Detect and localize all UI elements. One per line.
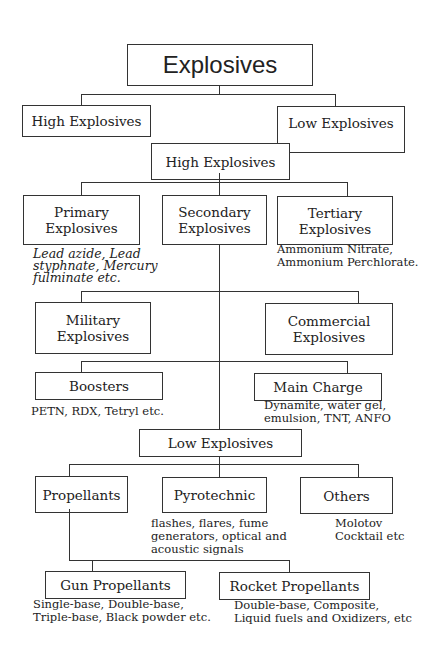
node-propellants: Propellants xyxy=(35,476,128,513)
node-label: Explosives xyxy=(288,329,371,345)
node-rocket-propellants: Rocket Propellants xyxy=(219,572,370,600)
connector xyxy=(81,361,82,372)
node-label: Explosives xyxy=(45,220,117,236)
pyrotechnic-examples: flashes, flares, fume generators, optica… xyxy=(151,517,287,556)
connector xyxy=(92,560,93,571)
node-label: Boosters xyxy=(69,378,129,394)
node-pyrotechnic: Pyrotechnic xyxy=(162,477,267,513)
tertiary-examples: Ammonium Nitrate, Ammonium Perchlorate. xyxy=(277,243,419,269)
node-others: Others xyxy=(300,477,393,514)
connector xyxy=(69,464,358,465)
connector xyxy=(219,85,220,94)
node-label: Explosives xyxy=(57,328,129,344)
connector xyxy=(335,94,336,106)
node-label: High Explosives xyxy=(165,154,275,170)
connector xyxy=(81,361,347,362)
node-military-explosives: Military Explosives xyxy=(35,302,151,354)
connector xyxy=(81,182,82,195)
node-label: Commercial xyxy=(288,313,371,329)
root-node-explosives: Explosives xyxy=(127,44,313,86)
node-label: Military xyxy=(57,312,129,328)
node-label: Gun Propellants xyxy=(60,577,171,593)
connector xyxy=(81,94,82,105)
connector xyxy=(219,244,220,450)
root-label: Explosives xyxy=(163,57,278,73)
node-label: Explosives xyxy=(178,220,250,236)
node-low-explosives: Low Explosives xyxy=(277,106,405,153)
connector xyxy=(347,182,348,196)
connector xyxy=(358,291,359,303)
section-header-high-explosives: High Explosives xyxy=(151,143,290,180)
node-primary-explosives: Primary Explosives xyxy=(23,195,140,245)
connector xyxy=(69,509,70,560)
node-label: Secondary xyxy=(178,204,250,220)
connector xyxy=(347,361,348,373)
node-label: Low Explosives xyxy=(168,435,273,451)
connector xyxy=(81,291,358,292)
section-header-low-explosives: Low Explosives xyxy=(139,429,302,457)
node-secondary-explosives: Secondary Explosives xyxy=(162,195,267,245)
node-gun-propellants: Gun Propellants xyxy=(45,571,186,599)
node-tertiary-explosives: Tertiary Explosives xyxy=(277,196,393,245)
boosters-examples: PETN, RDX, Tetryl etc. xyxy=(31,405,164,418)
connector xyxy=(219,456,220,477)
main-charge-examples: Dynamite, water gel, emulsion, TNT, ANFO xyxy=(264,399,391,425)
node-commercial-explosives: Commercial Explosives xyxy=(265,303,393,355)
node-main-charge: Main Charge xyxy=(254,373,382,401)
connector xyxy=(69,464,70,476)
node-label: Explosives xyxy=(299,221,371,237)
primary-examples: Lead azide, Lead styphnate, Mercury fulm… xyxy=(33,248,158,284)
node-label: High Explosives xyxy=(31,113,141,129)
node-label: Tertiary xyxy=(299,205,371,221)
connector xyxy=(219,173,220,195)
gun-propellants-examples: Single-base, Double-base, Triple-base, B… xyxy=(33,598,211,624)
node-label: Propellants xyxy=(42,487,120,503)
connector xyxy=(81,291,82,302)
rocket-propellants-examples: Double-base, Composite, Liquid fuels and… xyxy=(234,599,412,625)
node-label: Primary xyxy=(45,204,117,220)
connector xyxy=(81,94,335,95)
connector xyxy=(289,560,290,572)
connector xyxy=(69,560,289,561)
node-label: Pyrotechnic xyxy=(174,487,256,503)
node-high-explosives: High Explosives xyxy=(22,105,151,137)
node-boosters: Boosters xyxy=(35,372,163,400)
node-label: Rocket Propellants xyxy=(230,578,360,594)
connector xyxy=(358,464,359,477)
node-label: Main Charge xyxy=(273,379,362,395)
connector xyxy=(81,182,347,183)
others-examples: Molotov Cocktail etc xyxy=(335,517,405,543)
node-label: Low Explosives xyxy=(288,115,393,131)
node-label: Others xyxy=(323,488,370,504)
